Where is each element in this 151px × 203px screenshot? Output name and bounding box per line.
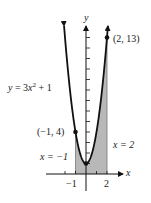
point-label-2-13: (2, 13) bbox=[113, 33, 140, 45]
boundary-label-right: x = 2 bbox=[112, 139, 134, 150]
y-axis-label: y bbox=[83, 12, 89, 23]
point-marker bbox=[84, 161, 89, 166]
point-marker bbox=[105, 35, 110, 40]
x-axis-label: x bbox=[125, 167, 131, 178]
parabola-chart: y x y = 3x2 + 1 (−1, 4) (2, 13) x = −1 x… bbox=[0, 0, 151, 203]
point-marker bbox=[73, 130, 78, 135]
y-axis-ticks bbox=[86, 38, 90, 164]
equation-label: y = 3x2 + 1 bbox=[7, 81, 52, 93]
x-tick-label-minus1: −1 bbox=[66, 178, 77, 189]
boundary-label-left: x = −1 bbox=[39, 151, 68, 162]
point-label-minus1-4: (−1, 4) bbox=[37, 126, 64, 138]
x-tick-label-2: 2 bbox=[104, 178, 109, 189]
